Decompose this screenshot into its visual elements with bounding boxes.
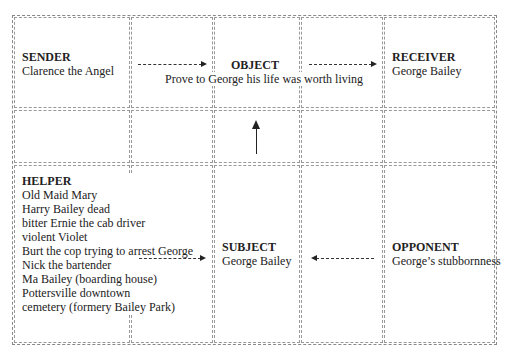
arrow-object-to-receiver-icon xyxy=(309,64,372,65)
arrow-opponent-to-subject-icon xyxy=(316,258,374,259)
object-value: Prove to George his life was worth livin… xyxy=(165,72,363,86)
helper-item: Pottersville downtown xyxy=(22,286,193,300)
opponent-title: OPPONENT xyxy=(392,240,501,254)
subject-value: George Bailey xyxy=(222,254,291,268)
helper-item: Harry Bailey dead xyxy=(22,202,193,216)
object-box: OBJECT Prove to George his life was wort… xyxy=(165,58,345,86)
grid-cell xyxy=(214,110,300,163)
receiver-value: George Bailey xyxy=(392,64,461,78)
helper-item: Old Maid Mary xyxy=(22,188,193,202)
subject-title: SUBJECT xyxy=(222,240,291,254)
arrow-subject-to-object-icon xyxy=(256,128,257,154)
grid-cell xyxy=(384,110,495,163)
helper-item: cemetery (formery Bailey Park) xyxy=(22,300,193,314)
helper-item: violent Violet xyxy=(22,230,193,244)
sender-value: Clarence the Angel xyxy=(22,64,114,78)
arrow-sender-to-object-icon xyxy=(138,64,202,65)
helper-title: HELPER xyxy=(22,174,193,188)
opponent-box: OPPONENT George’s stubbornness xyxy=(392,240,501,268)
sender-box: SENDER Clarence the Angel xyxy=(22,50,114,78)
object-title: OBJECT xyxy=(231,58,279,72)
helper-item: bitter Ernie the cab driver xyxy=(22,216,193,230)
receiver-box: RECEIVER George Bailey xyxy=(392,50,461,78)
arrow-helper-to-subject-icon xyxy=(139,258,201,259)
receiver-title: RECEIVER xyxy=(392,50,461,64)
sender-title: SENDER xyxy=(22,50,114,64)
opponent-value: George’s stubbornness xyxy=(392,254,501,268)
helper-item: Burt the cop trying to arrest George xyxy=(22,244,193,258)
grid-cell xyxy=(301,165,383,343)
grid-cell xyxy=(301,110,383,163)
helper-box: HELPER Old Maid Mary Harry Bailey dead b… xyxy=(22,174,195,314)
helper-item: Ma Bailey (boarding house) xyxy=(22,272,193,286)
grid-cell xyxy=(14,110,130,163)
grid-cell xyxy=(131,110,213,163)
subject-box: SUBJECT George Bailey xyxy=(222,240,291,268)
helper-item: Nick the bartender xyxy=(22,258,193,272)
